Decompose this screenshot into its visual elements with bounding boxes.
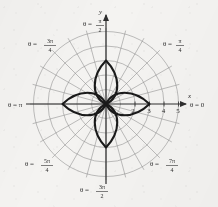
label-theta-5pi-4-num: 5π [44, 158, 50, 164]
label-theta-3pi-4-den: 4 [49, 47, 52, 53]
label-theta-0: θ = 0 [190, 101, 205, 109]
spoke-210 [40, 104, 106, 142]
label-theta-7pi-4: θ = 7π 4 [150, 158, 178, 173]
label-theta-pi-4-num: π [178, 38, 181, 44]
label-theta-3pi-2-text: θ = [80, 186, 89, 194]
label-theta-pi-4-text: θ = [163, 40, 172, 48]
label-theta-pi-2-num: π [98, 18, 101, 24]
spoke-60 [106, 38, 144, 104]
label-theta-pi-4-den: 4 [179, 47, 182, 53]
label-theta-7pi-4-num: 7π [169, 158, 175, 164]
polar-plot-figure: x y 2 3 4 5 θ = 0 θ = π 4 θ = π [0, 0, 218, 207]
label-theta-7pi-4-den: 4 [171, 167, 174, 173]
label-theta-7pi-4-text: θ = [150, 160, 159, 168]
label-theta-pi: θ = π [8, 101, 23, 109]
label-theta-5pi-4-den: 4 [46, 167, 49, 173]
label-theta-3pi-4: θ = 3π 4 [28, 38, 56, 53]
spoke-30 [106, 66, 172, 104]
radial-tick-4: 4 [162, 107, 166, 115]
label-theta-3pi-2-num: 3π [99, 184, 105, 190]
label-theta-3pi-4-num: 3π [47, 38, 53, 44]
spoke-240 [68, 104, 106, 170]
label-theta-0-text: θ = 0 [190, 101, 205, 109]
label-theta-3pi-2: θ = 3π 2 [80, 184, 108, 199]
label-theta-5pi-4: θ = 5π 4 [25, 158, 53, 173]
label-theta-3pi-2-den: 2 [101, 193, 104, 199]
label-theta-pi-2-den: 2 [99, 27, 102, 33]
spoke-150 [40, 66, 106, 104]
y-axis-label: y [98, 8, 103, 16]
x-axis-label: x [187, 92, 192, 100]
label-theta-pi-2-text: θ = [83, 20, 92, 28]
label-theta-pi-text: θ = π [8, 101, 23, 109]
spoke-120 [68, 38, 106, 104]
label-theta-3pi-4-text: θ = [28, 40, 37, 48]
label-theta-pi-4: θ = π 4 [163, 38, 184, 53]
radial-tick-3: 3 [147, 107, 151, 115]
radial-tick-5: 5 [176, 107, 180, 115]
spoke-300 [106, 104, 144, 170]
label-theta-5pi-4-text: θ = [25, 160, 34, 168]
